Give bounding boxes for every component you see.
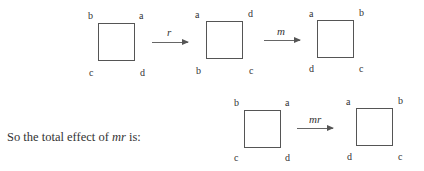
corner-label-br: d — [285, 153, 290, 163]
corner-label-bl: d — [347, 152, 352, 162]
corner-label-tl: b — [88, 11, 93, 21]
corner-label-bl: c — [234, 153, 238, 163]
corner-label-br: c — [249, 66, 253, 76]
sentence-prefix: So the total effect of — [7, 130, 112, 144]
corner-label-tr: a — [139, 11, 143, 21]
corner-label-tr: b — [398, 96, 403, 106]
corner-label-br: d — [140, 68, 145, 78]
square-shape — [98, 23, 135, 61]
arrow-label-m: m — [277, 26, 285, 37]
corner-label-tl: a — [195, 10, 199, 20]
square-shape — [206, 21, 243, 59]
square-shape — [317, 20, 354, 58]
corner-label-tr: a — [285, 98, 289, 108]
summary-sentence: So the total effect of mr is: — [7, 130, 141, 145]
corner-label-bl: c — [89, 68, 93, 78]
corner-label-tr: b — [359, 8, 364, 18]
sentence-math: mr — [112, 130, 126, 144]
corner-label-tl: a — [346, 97, 350, 107]
arrow-label-r: r — [167, 27, 171, 38]
corner-label-tr: d — [248, 9, 253, 19]
right-arrow-icon — [264, 40, 300, 41]
right-arrow-icon — [152, 42, 188, 43]
corner-label-bl: b — [196, 66, 201, 76]
corner-label-tl: a — [309, 9, 313, 19]
right-arrow-icon — [297, 128, 333, 129]
corner-label-br: c — [359, 64, 363, 74]
arrow-label-mr: mr — [309, 114, 321, 125]
square-shape — [356, 108, 393, 146]
corner-label-bl: d — [309, 64, 314, 74]
sentence-suffix: is: — [126, 130, 141, 144]
corner-label-tl: b — [234, 98, 239, 108]
square-shape — [244, 110, 281, 148]
corner-label-br: c — [398, 152, 402, 162]
